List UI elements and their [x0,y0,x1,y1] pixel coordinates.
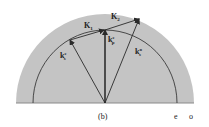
label-surface-o: o [189,112,193,121]
label-surface-e: e [174,112,178,121]
label-K2: K2 [111,12,120,22]
label-k-p-e: kep [108,35,115,45]
figure-caption: (b) [98,112,108,121]
wave-vector-diagram: kes kep kos K1 K2 e o (b) [0,0,209,127]
